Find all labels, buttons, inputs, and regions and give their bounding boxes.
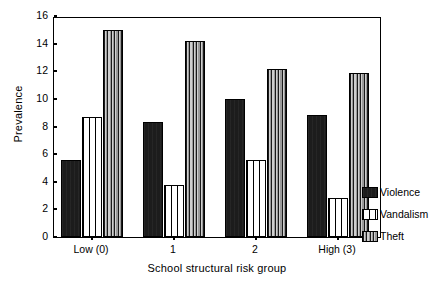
legend-swatch-theft — [362, 231, 378, 242]
y-axis-tick-label: 14 — [36, 37, 48, 49]
y-axis-title: Prevalence — [12, 59, 24, 169]
chart-legend: ViolenceVandalismTheft — [362, 181, 442, 247]
legend-swatch-violence — [362, 187, 378, 198]
x-axis-tick-mark — [91, 237, 93, 240]
legend-swatch-vandalism — [362, 209, 378, 220]
tick-mark — [54, 43, 57, 45]
y-axis-tick-label: 16 — [36, 9, 48, 21]
tick-mark — [54, 181, 57, 183]
legend-item-theft: Theft — [362, 225, 442, 247]
x-axis-tick-mark — [337, 237, 339, 240]
legend-item-vandalism: Vandalism — [362, 203, 442, 225]
legend-label: Violence — [380, 186, 420, 198]
tick-mark — [54, 126, 57, 128]
bar-violence-2 — [225, 99, 245, 237]
x-axis-title: School structural risk group — [53, 262, 381, 274]
tick-mark — [54, 15, 57, 17]
y-axis-tick-label: 10 — [36, 92, 48, 104]
tick-mark — [54, 70, 57, 72]
bar-theft-1 — [185, 41, 205, 237]
tick-mark — [54, 236, 57, 238]
legend-label: Theft — [380, 230, 404, 242]
bar-vandalism-3 — [328, 198, 348, 237]
tick-mark — [54, 208, 57, 210]
bar-vandalism-2 — [246, 160, 266, 237]
x-axis-tick-label: 1 — [133, 243, 213, 255]
y-axis-tick-label: 0 — [42, 230, 48, 242]
x-axis-tick-label: Low (0) — [51, 243, 131, 255]
x-axis-tick-label: 2 — [215, 243, 295, 255]
y-axis-tick-label: 8 — [42, 120, 48, 132]
tick-mark — [54, 98, 57, 100]
bar-chart: Prevalence 0246810121416 Low (0)12High (… — [0, 0, 442, 289]
bar-theft-2 — [267, 69, 287, 238]
legend-label: Vandalism — [380, 208, 428, 220]
y-axis-tick-label: 2 — [42, 202, 48, 214]
legend-item-violence: Violence — [362, 181, 442, 203]
bar-violence-3 — [307, 115, 327, 237]
x-axis-tick-mark — [255, 237, 257, 240]
bar-theft-0 — [103, 30, 123, 237]
plot-area: 0246810121416 — [53, 17, 381, 238]
y-axis-tick-label: 6 — [42, 147, 48, 159]
bar-violence-0 — [61, 160, 81, 237]
bar-vandalism-1 — [164, 185, 184, 237]
bar-violence-1 — [143, 122, 163, 237]
y-axis-tick-label: 12 — [36, 64, 48, 76]
bar-vandalism-0 — [82, 117, 102, 237]
tick-mark — [54, 153, 57, 155]
y-axis-tick-label: 4 — [42, 175, 48, 187]
x-axis-tick-mark — [173, 237, 175, 240]
